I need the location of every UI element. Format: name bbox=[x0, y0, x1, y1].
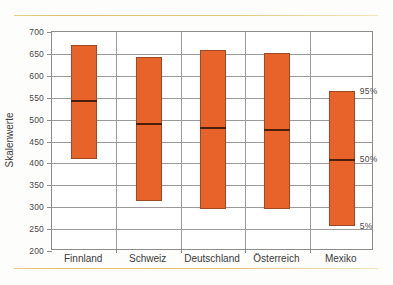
percentile-bar bbox=[329, 91, 355, 226]
y-axis-tick-mark bbox=[47, 32, 52, 33]
y-axis-tick-mark bbox=[47, 120, 52, 121]
y-axis-tick-label: 600 bbox=[29, 71, 44, 81]
x-axis-category-label: Schweiz bbox=[129, 253, 166, 264]
y-axis-tick-label: 200 bbox=[29, 246, 44, 256]
x-axis-tick-mark bbox=[116, 249, 117, 253]
x-axis-tick-mark bbox=[245, 249, 246, 253]
y-axis-tick-mark bbox=[47, 229, 52, 230]
y-axis-tick-label: 300 bbox=[29, 202, 44, 212]
percentile-label: 5% bbox=[360, 221, 373, 231]
y-axis-tick-mark bbox=[47, 54, 52, 55]
decorative-rule-bottom bbox=[14, 268, 378, 269]
y-axis-tick-label: 650 bbox=[29, 49, 44, 59]
x-axis-category-label: Finnland bbox=[64, 253, 102, 264]
y-axis-tick-label: 450 bbox=[29, 137, 44, 147]
chart-figure: Skalenwerte 7006506005505004504003503002… bbox=[0, 0, 393, 285]
percentile-bar bbox=[264, 53, 290, 210]
y-axis-label: Skalenwerte bbox=[4, 112, 15, 167]
median-line bbox=[136, 123, 162, 125]
y-axis-tick-label: 550 bbox=[29, 93, 44, 103]
x-axis-category-label: Deutschland bbox=[184, 253, 240, 264]
decorative-rule-top bbox=[14, 15, 378, 16]
y-axis-tick-mark bbox=[47, 142, 52, 143]
y-axis-tick-mark bbox=[47, 76, 52, 77]
y-axis-tick-mark bbox=[47, 207, 52, 208]
plot-area: 700650600550500450400350300250200 95%50%… bbox=[51, 31, 373, 250]
category-separator bbox=[116, 32, 117, 249]
y-axis-tick-label: 700 bbox=[29, 27, 44, 37]
y-axis-tick-label: 250 bbox=[29, 224, 44, 234]
y-axis-tick-mark bbox=[47, 98, 52, 99]
x-axis-tick-mark bbox=[310, 249, 311, 253]
x-axis-category-label: Mexiko bbox=[325, 253, 357, 264]
median-line bbox=[200, 127, 226, 129]
percentile-label: 50% bbox=[360, 154, 378, 164]
median-line bbox=[71, 100, 97, 102]
percentile-bar bbox=[136, 57, 162, 201]
y-axis-tick-label: 350 bbox=[29, 180, 44, 190]
y-axis-tick-mark bbox=[47, 163, 52, 164]
x-axis-category-label: Österreich bbox=[253, 253, 299, 264]
y-axis-tick-mark bbox=[47, 185, 52, 186]
median-line bbox=[329, 159, 355, 161]
category-separator bbox=[181, 32, 182, 249]
median-line bbox=[264, 129, 290, 131]
y-axis-tick-label: 400 bbox=[29, 158, 44, 168]
y-axis-tick-label: 500 bbox=[29, 115, 44, 125]
percentile-label: 95% bbox=[360, 86, 378, 96]
category-separator bbox=[245, 32, 246, 249]
category-separator bbox=[310, 32, 311, 249]
y-axis-tick-mark bbox=[47, 251, 52, 252]
percentile-bar bbox=[71, 45, 97, 159]
gridline bbox=[52, 229, 372, 230]
percentile-bar bbox=[200, 50, 226, 209]
x-axis-tick-mark bbox=[181, 249, 182, 253]
